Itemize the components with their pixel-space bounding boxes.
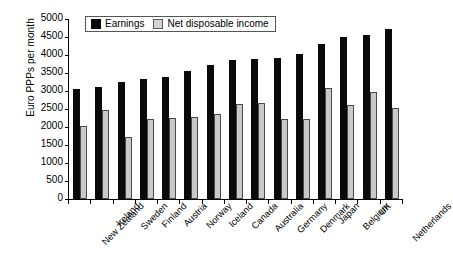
bar-group [136, 19, 158, 199]
bar-net-disposable-income [214, 114, 221, 199]
y-tick-label: 4500 [41, 30, 63, 41]
bar-net-disposable-income [236, 104, 243, 199]
bar-earnings [207, 65, 214, 199]
bar-group [336, 19, 358, 199]
bar-earnings [140, 79, 147, 199]
x-axis-label: Netherlands [410, 201, 453, 244]
y-tick-label: 5000 [41, 12, 63, 23]
bar-group [158, 19, 180, 199]
bar-earnings [184, 71, 191, 199]
bar-earnings [95, 87, 102, 199]
bar-earnings [318, 44, 325, 199]
bar-group [269, 19, 291, 199]
y-tick-label: 0 [57, 192, 63, 203]
bar-group [203, 19, 225, 199]
bar-group [114, 19, 136, 199]
legend-item-net-disposable-income: Net disposable income [153, 19, 268, 29]
legend-swatch-earnings [91, 19, 101, 29]
bar-net-disposable-income [169, 118, 176, 199]
bar-group [180, 19, 202, 199]
legend-item-earnings: Earnings [91, 19, 144, 29]
bar-net-disposable-income [392, 108, 399, 199]
bar-net-disposable-income [80, 126, 87, 199]
bar-net-disposable-income [191, 117, 198, 199]
bar-earnings [229, 60, 236, 199]
y-tick-label: 500 [46, 174, 63, 185]
bar-group [314, 19, 336, 199]
bar-group [69, 19, 91, 199]
y-tick-label: 3500 [41, 66, 63, 77]
bar-earnings [363, 35, 370, 199]
bar-group [381, 19, 403, 199]
bar-group [358, 19, 380, 199]
bar-net-disposable-income [102, 110, 109, 199]
bar-group [247, 19, 269, 199]
legend-label-net-disposable-income: Net disposable income [167, 19, 268, 29]
y-tick-label: 3000 [41, 84, 63, 95]
y-tick-label: 2000 [41, 120, 63, 131]
bar-group [91, 19, 113, 199]
bar-net-disposable-income [303, 119, 310, 199]
bar-net-disposable-income [325, 88, 332, 199]
bar-earnings [73, 89, 80, 199]
bar-net-disposable-income [147, 119, 154, 199]
bar-net-disposable-income [125, 137, 132, 199]
bar-group [292, 19, 314, 199]
legend: Earnings Net disposable income [85, 16, 276, 32]
y-tick-label: 1500 [41, 138, 63, 149]
y-tick-label: 2500 [41, 102, 63, 113]
x-axis-labels: New ZealandIrelandSwedenFinlandAustriaNo… [68, 201, 402, 259]
legend-swatch-net-disposable-income [153, 19, 163, 29]
bar-net-disposable-income [347, 105, 354, 199]
bar-earnings [385, 29, 392, 199]
plot-area: 5000450040003500300025002000150010005000 [68, 19, 403, 200]
y-tick-label: 1000 [41, 156, 63, 167]
x-tick-mark [402, 199, 403, 204]
bar-net-disposable-income [281, 119, 288, 199]
bar-groups [69, 19, 403, 199]
bar-net-disposable-income [258, 103, 265, 199]
bar-earnings [118, 82, 125, 199]
bar-group [225, 19, 247, 199]
y-axis-label: Euro PPPs per month [25, 0, 36, 138]
bar-earnings [162, 77, 169, 199]
bar-earnings [251, 59, 258, 199]
y-tick-label: 4000 [41, 48, 63, 59]
bar-net-disposable-income [370, 92, 377, 199]
legend-label-earnings: Earnings [105, 19, 144, 29]
bar-earnings [274, 58, 281, 199]
bar-earnings [296, 54, 303, 199]
bar-earnings [340, 37, 347, 199]
